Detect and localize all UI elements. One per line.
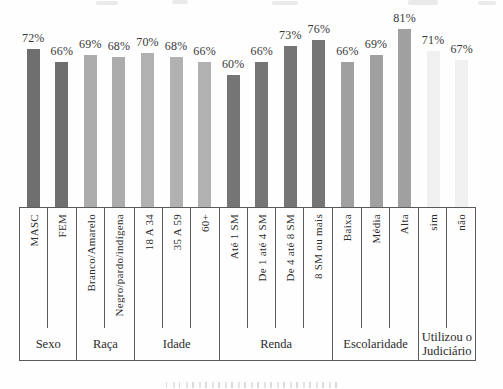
bar-column: 73% <box>276 7 305 207</box>
bar <box>84 55 97 207</box>
bar-value-label: 66% <box>250 44 273 59</box>
category-group: Branco/AmareloNegro/pardo/indígenaRaça <box>76 208 133 360</box>
category-cells: Até 1 SMDe 1 até 4 SMDe 4 até 8 SM8 SM o… <box>220 208 333 328</box>
bar-value-label: 66% <box>51 44 74 59</box>
category-group: simnãoUtilizou o Judiciário <box>418 208 476 360</box>
category-label: 18 A 34 <box>143 214 155 250</box>
bar-value-label: 70% <box>136 35 159 50</box>
category-cell: 8 SM ou mais <box>304 208 332 328</box>
bar <box>370 55 383 207</box>
bar <box>341 62 354 207</box>
category-axis-table: MASCFEMSexoBranco/AmareloNegro/pardo/ind… <box>19 207 476 361</box>
bar-value-label: 66% <box>193 44 216 59</box>
category-cells: MASCFEM <box>20 208 76 328</box>
bar-value-label: 81% <box>393 11 416 26</box>
category-label: De 1 até 4 SM <box>256 214 268 281</box>
category-cell: 60+ <box>191 208 219 328</box>
category-group: Até 1 SMDe 1 até 4 SMDe 4 até 8 SM8 SM o… <box>219 208 333 360</box>
bar <box>227 75 240 207</box>
bar-column: 69% <box>362 7 391 207</box>
scan-smudge <box>272 1 298 5</box>
category-label: De 4 até 8 SM <box>284 214 296 281</box>
bar <box>170 57 183 207</box>
category-cell: De 1 até 4 SM <box>248 208 276 328</box>
bar-column: 66% <box>190 7 219 207</box>
bar-column: 66% <box>48 7 77 207</box>
bar-column: 76% <box>305 7 334 207</box>
category-cell: Alta <box>390 208 418 328</box>
bar-column: 68% <box>105 7 134 207</box>
bar-value-label: 68% <box>108 39 131 54</box>
category-label: MASC <box>28 214 40 246</box>
bar-value-label: 68% <box>165 39 188 54</box>
cut-off-caption <box>166 382 342 388</box>
category-cell: não <box>447 208 475 328</box>
scan-smudge <box>408 0 438 5</box>
bar-value-label: 60% <box>222 57 245 72</box>
bar-value-label: 66% <box>336 44 359 59</box>
category-label: 60+ <box>199 214 211 232</box>
category-label: Negro/pardo/indígena <box>113 214 125 317</box>
bar-column: 66% <box>333 7 362 207</box>
scan-smudge <box>478 1 496 5</box>
category-label: Até 1 SM <box>228 214 240 259</box>
bar <box>312 40 325 207</box>
bar-column: 60% <box>219 7 248 207</box>
category-label: FEM <box>56 214 68 238</box>
category-cell: Média <box>362 208 390 328</box>
category-cell: MASC <box>20 208 48 328</box>
category-cell: Negro/pardo/indígena <box>105 208 133 328</box>
category-label: 35 A 59 <box>171 214 183 250</box>
bar-value-label: 76% <box>308 22 331 37</box>
bar-column: 69% <box>76 7 105 207</box>
category-group: MASCFEMSexo <box>19 208 76 360</box>
bar-value-label: 71% <box>422 33 445 48</box>
group-label: Utilizou o Judiciário <box>419 328 475 360</box>
bar-column: 68% <box>162 7 191 207</box>
bar-column: 67% <box>447 7 476 207</box>
bar-value-label: 72% <box>22 31 45 46</box>
category-label: 8 SM ou mais <box>312 214 324 279</box>
scan-smudge <box>172 0 188 4</box>
bar-column: 81% <box>390 7 419 207</box>
bar-value-label: 69% <box>365 37 388 52</box>
bar <box>255 62 268 207</box>
category-group: 18 A 3435 A 5960+Idade <box>134 208 219 360</box>
bar-column: 72% <box>19 7 48 207</box>
category-cell: De 4 até 8 SM <box>276 208 304 328</box>
category-group: BaixaMédiaAltaEscolaridade <box>332 208 417 360</box>
bar <box>55 62 68 207</box>
bar-value-label: 73% <box>279 28 302 43</box>
category-cells: BaixaMédiaAlta <box>333 208 417 328</box>
category-label: Baixa <box>341 214 353 241</box>
category-cells: 18 A 3435 A 5960+ <box>135 208 219 328</box>
scan-smudge <box>96 1 118 5</box>
category-label: sim <box>427 214 439 231</box>
bar <box>455 60 468 207</box>
bar-column: 66% <box>248 7 277 207</box>
bar <box>198 62 211 207</box>
category-label: Média <box>370 214 382 244</box>
category-cells: Branco/AmareloNegro/pardo/indígena <box>77 208 133 328</box>
scanned-bar-chart: 72%66%69%68%70%68%66%60%66%73%76%66%69%8… <box>0 0 503 389</box>
bar <box>112 57 125 207</box>
group-label: Idade <box>135 328 219 360</box>
category-cell: Até 1 SM <box>220 208 248 328</box>
group-label: Sexo <box>20 328 76 360</box>
bar <box>27 49 40 207</box>
bar <box>427 51 440 207</box>
category-cell: Baixa <box>333 208 361 328</box>
bar <box>284 46 297 207</box>
bar-value-label: 69% <box>79 37 102 52</box>
group-label: Renda <box>220 328 333 360</box>
bar <box>141 53 154 207</box>
category-cell: sim <box>419 208 447 328</box>
category-label: Alta <box>398 214 410 234</box>
plot-area: 72%66%69%68%70%68%66%60%66%73%76%66%69%8… <box>19 7 476 207</box>
bar-column: 71% <box>419 7 448 207</box>
group-label: Escolaridade <box>333 328 417 360</box>
category-cell: 18 A 34 <box>135 208 163 328</box>
bar <box>398 29 411 207</box>
group-label: Raça <box>77 328 133 360</box>
category-cells: simnão <box>419 208 475 328</box>
